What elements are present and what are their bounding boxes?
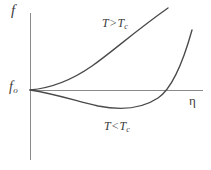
figure-landau-free-energy: f fo η T>Tc T<Tc <box>0 0 211 170</box>
y-origin-label: fo <box>9 80 18 95</box>
x-axis-label: η <box>189 94 196 107</box>
annotation-below-critical-temperature: T<Tc <box>104 120 130 134</box>
y-origin-subscript: o <box>13 85 18 95</box>
annotation-above-variable: T <box>102 16 109 30</box>
annotation-above-critical-temperature: T>Tc <box>102 17 128 31</box>
annotation-below-operator: < <box>112 119 119 133</box>
curve-below-critical-temperature <box>30 30 192 108</box>
annotation-below-subscript: c <box>126 125 130 134</box>
annotation-above-subscript: c <box>124 22 128 31</box>
annotation-below-variable: T <box>104 119 111 133</box>
annotation-above-operator: > <box>110 16 117 30</box>
curve-above-critical-temperature <box>30 8 168 90</box>
y-axis-label: f <box>11 3 15 18</box>
